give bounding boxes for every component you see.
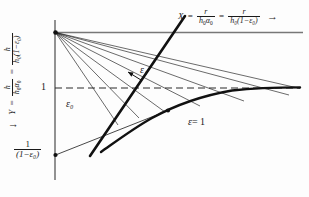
x-axis-fraction-1: r h0α0 (197, 8, 215, 26)
tick-bottom-fraction: 1 (1−ε₀) (14, 140, 41, 159)
y-axis-frac2-denominator: h₀(1−ε₀) (14, 33, 22, 64)
y-axis-arrow-icon: ↓ (8, 123, 19, 129)
origin-node-marker (53, 153, 57, 157)
y-den-alpha: α (12, 83, 21, 87)
region-label-epsilon-zero: ε₀ (66, 99, 73, 109)
region-label-epsilon-equals-one: ε= 1 (188, 117, 205, 127)
plot-svg (0, 0, 309, 197)
fan-ray-group (56, 33, 301, 126)
y-den-h-sub: 0 (16, 87, 22, 90)
y-den-h: h (12, 90, 21, 94)
y-axis-symbol: Y (7, 110, 17, 115)
x-axis-fraction-2: r h₀(1−ε₀) (228, 8, 259, 25)
y-axis-frac1-denominator: h0α0 (13, 79, 22, 97)
x-axis-frac2-denominator: h₀(1−ε₀) (228, 17, 259, 25)
x-den-alpha-sub: 0 (210, 20, 213, 26)
figure-container: X = r h0α0 = r h₀(1−ε₀) → ↓ Y = h h0α0 =… (0, 0, 309, 197)
fan-ray-4 (56, 33, 201, 107)
y-axis-fraction-1: h h0α0 (4, 79, 22, 97)
fan-ray-2 (56, 33, 290, 96)
x-axis-arrow-icon: → (267, 11, 278, 22)
y-tick-label-one-over-one-minus-eps0: 1 (1−ε₀) (14, 140, 41, 159)
fan-ray-1 (56, 33, 301, 89)
epsilon-equals-value: = 1 (192, 116, 205, 127)
fan-ray-7 (56, 33, 119, 126)
x-axis-equals-1: = (186, 12, 195, 21)
contact-point-marker (166, 108, 170, 112)
x-axis-equals-2: = (217, 12, 226, 21)
tick-bottom-denominator: (1−ε₀) (14, 150, 41, 159)
y-tick-label-one: 1 (41, 82, 46, 92)
x-axis-label: X = r h0α0 = r h₀(1−ε₀) → (178, 8, 278, 26)
region-label-epsilon-one: ε₁ (140, 65, 147, 75)
y-den-alpha-sub: 0 (16, 81, 22, 84)
fan-apex-marker (53, 30, 58, 35)
x-axis-symbol: X (178, 11, 184, 21)
y-axis-label: ↓ Y = h h0α0 = h h₀(1−ε₀) (4, 22, 22, 140)
y-axis-equals-1: = (9, 98, 18, 107)
x-axis-frac1-denominator: h0α0 (197, 17, 215, 26)
y-axis-equals-2: = (9, 67, 18, 76)
shock-line (90, 16, 185, 156)
y-axis-fraction-2: h h₀(1−ε₀) (5, 33, 22, 64)
